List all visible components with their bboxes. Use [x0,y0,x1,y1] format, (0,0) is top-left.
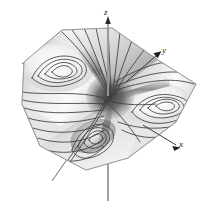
z-axis-label: z [104,8,108,17]
surface-body [22,28,196,181]
x-axis-label: x [179,140,183,149]
surface-plot-canvas [0,0,212,209]
y-axis-label: y [162,46,166,55]
surface-plot-figure: z y x [0,0,212,209]
